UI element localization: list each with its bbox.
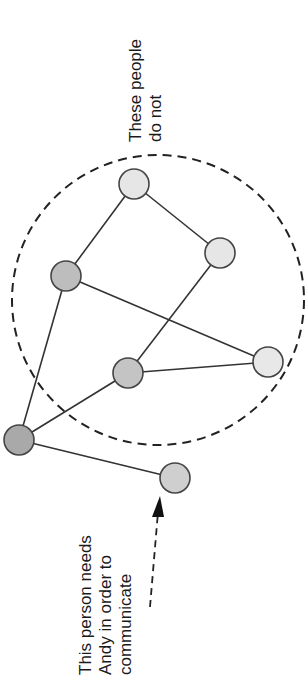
label-line: This person needs: [76, 535, 96, 675]
edge-andy-bottom: [19, 440, 175, 478]
arrow: [150, 496, 164, 607]
edge-top-right: [134, 184, 220, 253]
edges: [19, 184, 268, 478]
node-left: [51, 261, 81, 291]
node-bottom: [160, 463, 190, 493]
edge-mid-farright: [128, 362, 268, 373]
edge-right-mid: [128, 253, 220, 373]
label-this-person: This person needs Andy in order to commu…: [76, 535, 136, 675]
edge-left-farright: [66, 276, 268, 362]
edge-left-top: [66, 184, 134, 276]
label-line: These people: [126, 39, 146, 142]
label-these-people: These people do not: [126, 39, 166, 142]
node-andy: [4, 425, 34, 455]
node-farright: [253, 347, 283, 377]
label-line: communicate: [116, 535, 136, 675]
label-line: do not: [146, 39, 166, 142]
node-top: [119, 169, 149, 199]
node-mid: [113, 358, 143, 388]
label-line: Andy in order to: [96, 535, 116, 675]
node-right: [205, 238, 235, 268]
group-boundary: [12, 155, 304, 445]
